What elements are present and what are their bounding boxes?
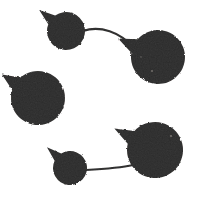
speck-mark: [151, 70, 153, 72]
blob-figure-svg: [0, 0, 202, 200]
figure-canvas: Five dark irregular circular blobs with …: [0, 0, 202, 200]
speck-mark: [170, 135, 172, 137]
speck-mark: [140, 56, 141, 57]
